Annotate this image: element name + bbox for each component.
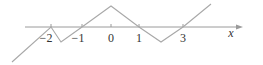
tick-label-neg2: −2 [40, 31, 53, 45]
tick-label-0: 0 [108, 31, 114, 45]
tick-label-1: 1 [136, 31, 142, 45]
x-axis-label: x [227, 26, 234, 40]
tick-label-neg1: −1 [72, 31, 85, 45]
x-axis-arrowhead-icon [236, 25, 243, 30]
function-graph: −2 −1 0 1 3 x [0, 0, 263, 65]
tick-label-3: 3 [180, 31, 186, 45]
